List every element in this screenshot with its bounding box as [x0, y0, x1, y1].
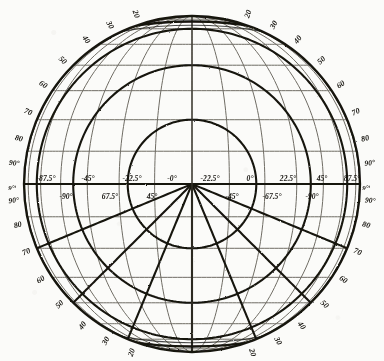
equator-label-lower: -67.5° — [263, 192, 282, 201]
rim-latitude-label: 90° — [364, 158, 375, 168]
rim-latitude-label: 90° — [8, 195, 19, 205]
equator-label-upper: -22.5° — [201, 174, 220, 183]
equator-label-lower: 67.5° — [102, 192, 118, 201]
rim-latitude-label: 90° — [9, 158, 20, 168]
equator-label-upper: 22.5° — [279, 174, 296, 183]
equator-label-upper: -87.5° — [37, 174, 56, 183]
equator-label-upper: 45° — [316, 174, 328, 183]
equator-label-upper: -22.5° — [123, 174, 142, 183]
equator-label-lower: -90° — [305, 192, 318, 201]
edge-marker: 9°ᵗ — [8, 184, 16, 192]
equator-label-lower: -90° — [59, 192, 72, 201]
equator-label-lower: 45° — [146, 192, 158, 201]
equator-label-lower: -45° — [225, 192, 238, 201]
equator-label-upper: 0° — [247, 174, 254, 183]
rim-latitude-label: 90° — [365, 195, 376, 205]
projection-figure: 90°8070605040302090°8070605040302090°807… — [0, 0, 384, 361]
equator-label-upper: 87.5° — [344, 174, 360, 183]
equator-label-upper: -0° — [167, 174, 176, 183]
equator-label-upper: -45° — [81, 174, 94, 183]
graticule-plate: 90°8070605040302090°8070605040302090°807… — [0, 0, 384, 361]
edge-marker: 9°ᵗ — [362, 184, 370, 192]
